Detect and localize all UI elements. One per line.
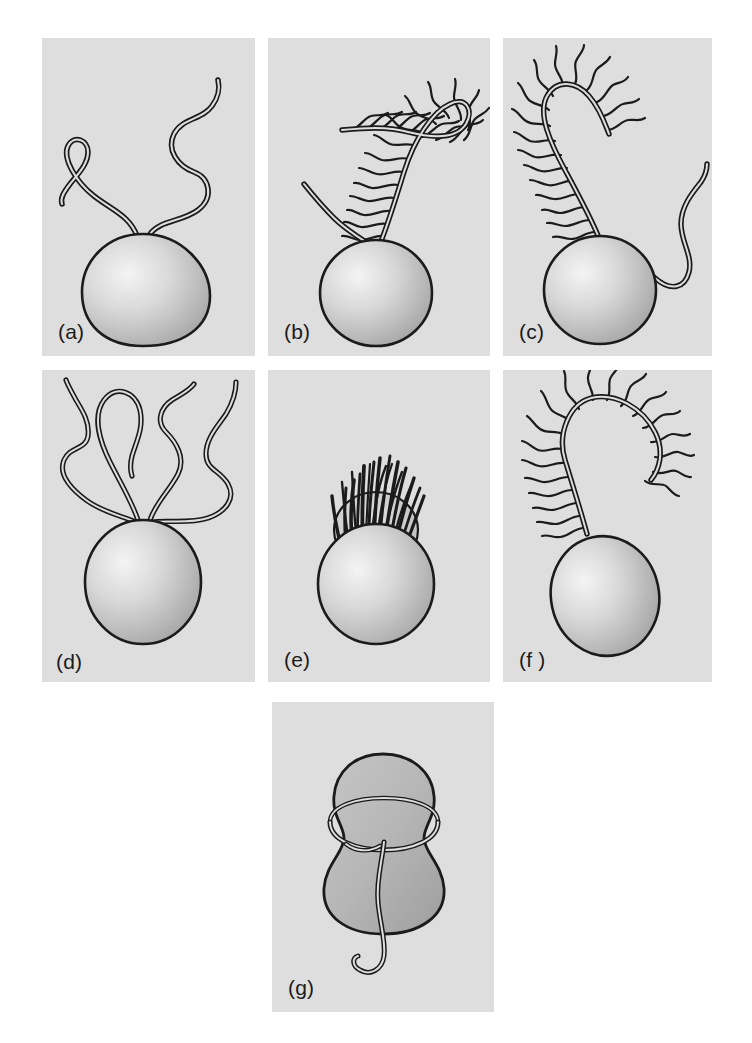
cell-f xyxy=(522,370,694,666)
cell-e xyxy=(318,456,434,644)
panel-g-illustration xyxy=(272,702,494,1012)
panel-d-illustration xyxy=(42,370,255,682)
cell-b xyxy=(304,79,489,346)
panel-g: (g) xyxy=(272,702,494,1012)
cell-d xyxy=(62,380,236,644)
panel-c: (c) xyxy=(503,38,712,356)
panel-f-illustration xyxy=(503,370,712,682)
panel-e-illustration xyxy=(268,370,490,682)
cell-g xyxy=(324,754,444,972)
panel-a: (a) xyxy=(42,38,255,356)
panel-b: (b) xyxy=(268,38,490,356)
panel-label-d: (d) xyxy=(56,651,82,672)
cell-c xyxy=(512,45,707,344)
figure-root: (a) xyxy=(0,0,752,1043)
panel-label-f: (f ) xyxy=(519,649,545,670)
panel-label-b: (b) xyxy=(284,321,310,342)
panel-f: (f ) xyxy=(503,370,712,682)
panel-a-illustration xyxy=(42,38,255,356)
panel-label-a: (a) xyxy=(58,321,84,342)
mastigonemes-c xyxy=(512,45,645,239)
panel-b-illustration xyxy=(268,38,490,356)
panel-label-c: (c) xyxy=(519,321,544,342)
panel-label-e: (e) xyxy=(284,649,310,670)
panel-label-g: (g) xyxy=(288,977,314,998)
panel-d: (d) xyxy=(42,370,255,682)
panel-e: (e) xyxy=(268,370,490,682)
cell-a xyxy=(61,80,218,346)
panel-c-illustration xyxy=(503,38,712,356)
